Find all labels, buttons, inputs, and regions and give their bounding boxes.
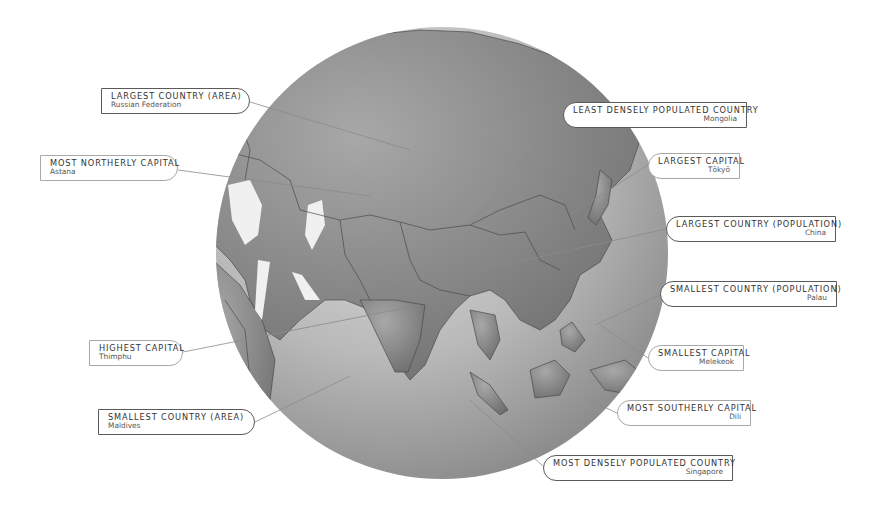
- callout-value: Thimphu: [99, 353, 173, 362]
- callout-title: MOST SOUTHERLY CAPITAL: [627, 404, 741, 413]
- callout-value: Singapore: [553, 468, 723, 477]
- callout-highest-capital: HIGHEST CAPITAL Thimphu: [89, 340, 183, 366]
- callout-value: Astana: [50, 168, 168, 177]
- callout-value: Palau: [670, 294, 827, 303]
- callout-smallest-capital: SMALLEST CAPITAL Melekeok: [648, 345, 744, 371]
- callout-value: Dili: [627, 413, 741, 422]
- callout-value: Russian Federation: [111, 101, 240, 110]
- callout-value: Mongolia: [573, 115, 737, 124]
- callout-most-northerly-capital: MOST NORTHERLY CAPITAL Astana: [40, 155, 178, 181]
- callout-title: LARGEST COUNTRY (POPULATION): [676, 220, 826, 229]
- callout-smallest-country-area: SMALLEST COUNTRY (AREA) Maldives: [98, 409, 255, 435]
- callout-most-southerly-capital: MOST SOUTHERLY CAPITAL Dili: [617, 400, 751, 426]
- callout-value: Maldives: [108, 422, 245, 431]
- callout-value: Tōkyō: [658, 166, 730, 175]
- globe-infographic: LARGEST COUNTRY (AREA) Russian Federatio…: [0, 0, 877, 510]
- callout-smallest-country-population: SMALLEST COUNTRY (POPULATION) Palau: [660, 281, 837, 307]
- callout-least-densely-populated: LEAST DENSELY POPULATED COUNTRY Mongolia: [563, 102, 747, 128]
- callout-largest-country-population: LARGEST COUNTRY (POPULATION) China: [666, 216, 836, 242]
- callout-largest-country-area: LARGEST COUNTRY (AREA) Russian Federatio…: [101, 88, 250, 114]
- callout-value: Melekeok: [658, 358, 734, 367]
- callout-title: SMALLEST COUNTRY (POPULATION): [670, 285, 827, 294]
- callout-most-densely-populated: MOST DENSELY POPULATED COUNTRY Singapore: [543, 455, 733, 481]
- callout-value: China: [676, 229, 826, 238]
- callout-largest-capital: LARGEST CAPITAL Tōkyō: [648, 153, 740, 179]
